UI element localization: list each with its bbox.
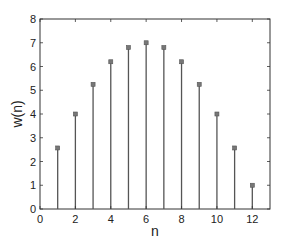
y-tick-label: 4 [30, 108, 36, 120]
x-tick-label: 6 [143, 213, 149, 225]
x-tick-label: 4 [108, 213, 114, 225]
x-tick-label: 12 [246, 213, 258, 225]
y-tick-label: 8 [30, 13, 36, 25]
y-tick-label: 3 [30, 132, 36, 144]
stem-marker [250, 183, 254, 187]
y-tick-label: 1 [30, 179, 36, 191]
stem-marker [73, 112, 77, 116]
y-tick-label: 0 [30, 203, 36, 215]
stem-chart: 024681012 012345678 n w(n) [0, 0, 283, 244]
stem-marker [144, 41, 148, 45]
stem-marker [233, 146, 237, 150]
x-tick-label: 8 [178, 213, 184, 225]
stem-marker [215, 112, 219, 116]
stem-marker [126, 46, 130, 50]
x-axis-label: n [151, 223, 159, 239]
stem-marker [109, 60, 113, 64]
x-tick-label: 10 [211, 213, 223, 225]
stem-marker [180, 60, 184, 64]
y-tick-label: 5 [30, 84, 36, 96]
stem-marker [91, 82, 95, 86]
y-tick-label: 2 [30, 156, 36, 168]
y-tick-label: 7 [30, 37, 36, 49]
stem-marker [162, 46, 166, 50]
x-tick-label: 2 [72, 213, 78, 225]
y-tick-label: 6 [30, 61, 36, 73]
y-axis-label: w(n) [9, 100, 25, 128]
x-tick-label: 0 [37, 213, 43, 225]
stem-marker [56, 146, 60, 150]
stem-marker [197, 82, 201, 86]
